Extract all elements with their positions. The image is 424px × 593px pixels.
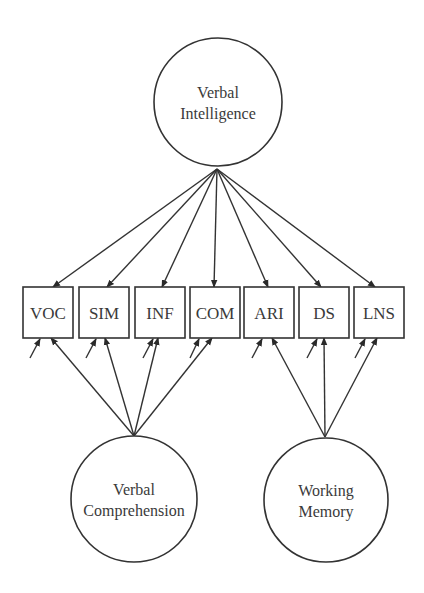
observed-node-inf: INF: [135, 287, 185, 338]
latent-node-vc: VerbalComprehension: [71, 436, 197, 562]
observed-node-ari: ARI: [244, 287, 294, 338]
path-arrow-vi-to-ari: [217, 169, 268, 287]
error-arrow-ari: [252, 339, 262, 358]
error-arrow-lns: [355, 339, 365, 358]
latent-label: Verbal: [197, 84, 239, 101]
latent-circle: [154, 38, 282, 166]
path-arrow-vc-to-voc: [51, 338, 134, 436]
latent-circle: [71, 436, 197, 562]
latent-node-vi: VerbalIntelligence: [154, 38, 282, 166]
error-arrow-sim: [86, 339, 96, 358]
path-arrow-vi-to-com: [214, 169, 217, 287]
path-arrow-vi-to-ds: [217, 169, 321, 287]
latent-label: Intelligence: [180, 105, 256, 123]
error-arrow-ds: [307, 339, 317, 358]
observed-variables: VOCSIMINFCOMARIDSLNS: [23, 287, 404, 338]
latent-label: Working: [298, 482, 354, 500]
observed-label: VOC: [30, 304, 66, 323]
observed-node-com: COM: [190, 287, 240, 338]
observed-label: DS: [313, 304, 335, 323]
sem-diagram: VerbalIntelligenceVerbalComprehensionWor…: [0, 0, 424, 593]
path-arrow-wm-to-ds: [324, 338, 325, 437]
error-arrow-inf: [143, 339, 153, 358]
observed-node-ds: DS: [299, 287, 349, 338]
observed-node-sim: SIM: [79, 287, 129, 338]
latent-label: Verbal: [113, 481, 155, 498]
latent-label: Comprehension: [83, 502, 184, 520]
observed-label: INF: [146, 304, 173, 323]
path-arrow-vi-to-inf: [162, 169, 217, 287]
error-arrow-voc: [30, 339, 40, 358]
observed-label: ARI: [254, 304, 284, 323]
observed-node-voc: VOC: [23, 287, 73, 338]
observed-label: COM: [196, 304, 235, 323]
latent-node-wm: WorkingMemory: [264, 438, 388, 562]
latent-circle: [264, 438, 388, 562]
path-arrow-wm-to-ari: [272, 338, 325, 437]
path-arrow-vi-to-lns: [217, 169, 375, 287]
observed-node-lns: LNS: [354, 287, 404, 338]
path-arrow-wm-to-lns: [325, 338, 377, 437]
path-arrow-vi-to-sim: [107, 169, 217, 287]
path-arrow-vc-to-sim: [105, 338, 134, 436]
observed-label: SIM: [89, 304, 119, 323]
latent-label: Memory: [298, 503, 353, 521]
observed-label: LNS: [363, 304, 395, 323]
path-arrow-vi-to-voc: [53, 169, 217, 287]
